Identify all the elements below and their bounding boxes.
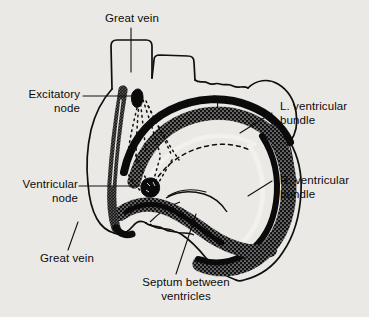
label-great-vein-top: Great vein: [77, 12, 187, 26]
heart-conduction-diagram: Great vein Excitatory node Ventricular n…: [0, 0, 369, 317]
excitatory-node-body: [131, 89, 143, 107]
label-ventricular-node: Ventricular node: [0, 178, 78, 205]
sinoatrial-excitatory-node: [131, 89, 143, 107]
diagram-canvas: [0, 0, 369, 317]
label-great-vein-bottom: Great vein: [15, 252, 119, 266]
label-septum: Septum between ventricles: [124, 276, 248, 303]
label-ventricular-node-line2: node: [52, 192, 78, 204]
label-right-bundle-line2: bundle: [280, 188, 315, 200]
label-right-ventricular-bundle: R. ventricular bundle: [280, 174, 368, 201]
label-excitatory-node-line2: node: [54, 102, 80, 114]
label-left-ventricular-bundle: L. ventricular bundle: [280, 100, 368, 127]
label-great-vein-top-text: Great vein: [105, 12, 159, 24]
label-ventricular-node-line1: Ventricular: [23, 178, 78, 190]
label-septum-line2: ventricles: [161, 290, 211, 302]
label-left-bundle-line2: bundle: [280, 114, 315, 126]
label-great-vein-bottom-text: Great vein: [40, 252, 94, 264]
figure-background: [0, 0, 369, 317]
label-right-bundle-line1: R. ventricular: [280, 174, 349, 186]
ventricular-node-body: [141, 178, 160, 197]
label-left-bundle-line1: L. ventricular: [280, 100, 347, 112]
label-septum-line1: Septum between: [142, 276, 230, 288]
atrioventricular-ventricular-node: [141, 178, 160, 197]
label-excitatory-node-line1: Excitatory: [29, 88, 81, 100]
label-excitatory-node: Excitatory node: [2, 88, 80, 115]
